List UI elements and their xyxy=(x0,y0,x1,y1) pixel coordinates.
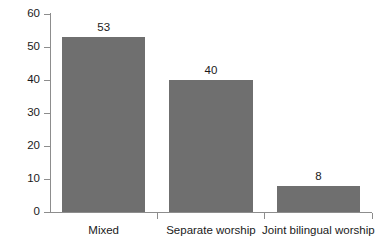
y-tick-label: 50 xyxy=(12,41,40,53)
y-tick-mark xyxy=(44,146,50,147)
x-tick-mark xyxy=(372,213,373,219)
bar xyxy=(277,186,361,212)
y-tick-mark xyxy=(44,47,50,48)
y-tick-label: 30 xyxy=(12,107,40,119)
y-tick-label: 40 xyxy=(12,74,40,86)
x-tick-mark xyxy=(157,213,158,219)
y-tick-label: 60 xyxy=(12,8,40,20)
bar-value-label: 8 xyxy=(265,170,372,182)
bar-value-label: 53 xyxy=(50,21,157,33)
x-category-label: Mixed xyxy=(42,224,165,237)
y-tick-label: 0 xyxy=(12,206,40,218)
bar-value-label: 40 xyxy=(157,64,264,76)
y-tick-label: 20 xyxy=(12,140,40,152)
y-axis-line xyxy=(50,13,51,213)
x-category-label: Joint bilingual worship xyxy=(257,224,379,237)
y-tick-label: 10 xyxy=(12,173,40,185)
x-axis-line xyxy=(50,212,372,213)
x-tick-mark xyxy=(264,213,265,219)
y-tick-mark xyxy=(44,179,50,180)
y-tick-mark xyxy=(44,14,50,15)
y-tick-mark xyxy=(44,80,50,81)
y-tick-mark xyxy=(44,113,50,114)
bar xyxy=(62,37,146,212)
bar xyxy=(169,80,253,212)
x-category-label: Separate worship xyxy=(149,224,272,237)
bar-chart: Percent 0102030405060 53408 MixedSeparat… xyxy=(0,0,379,244)
